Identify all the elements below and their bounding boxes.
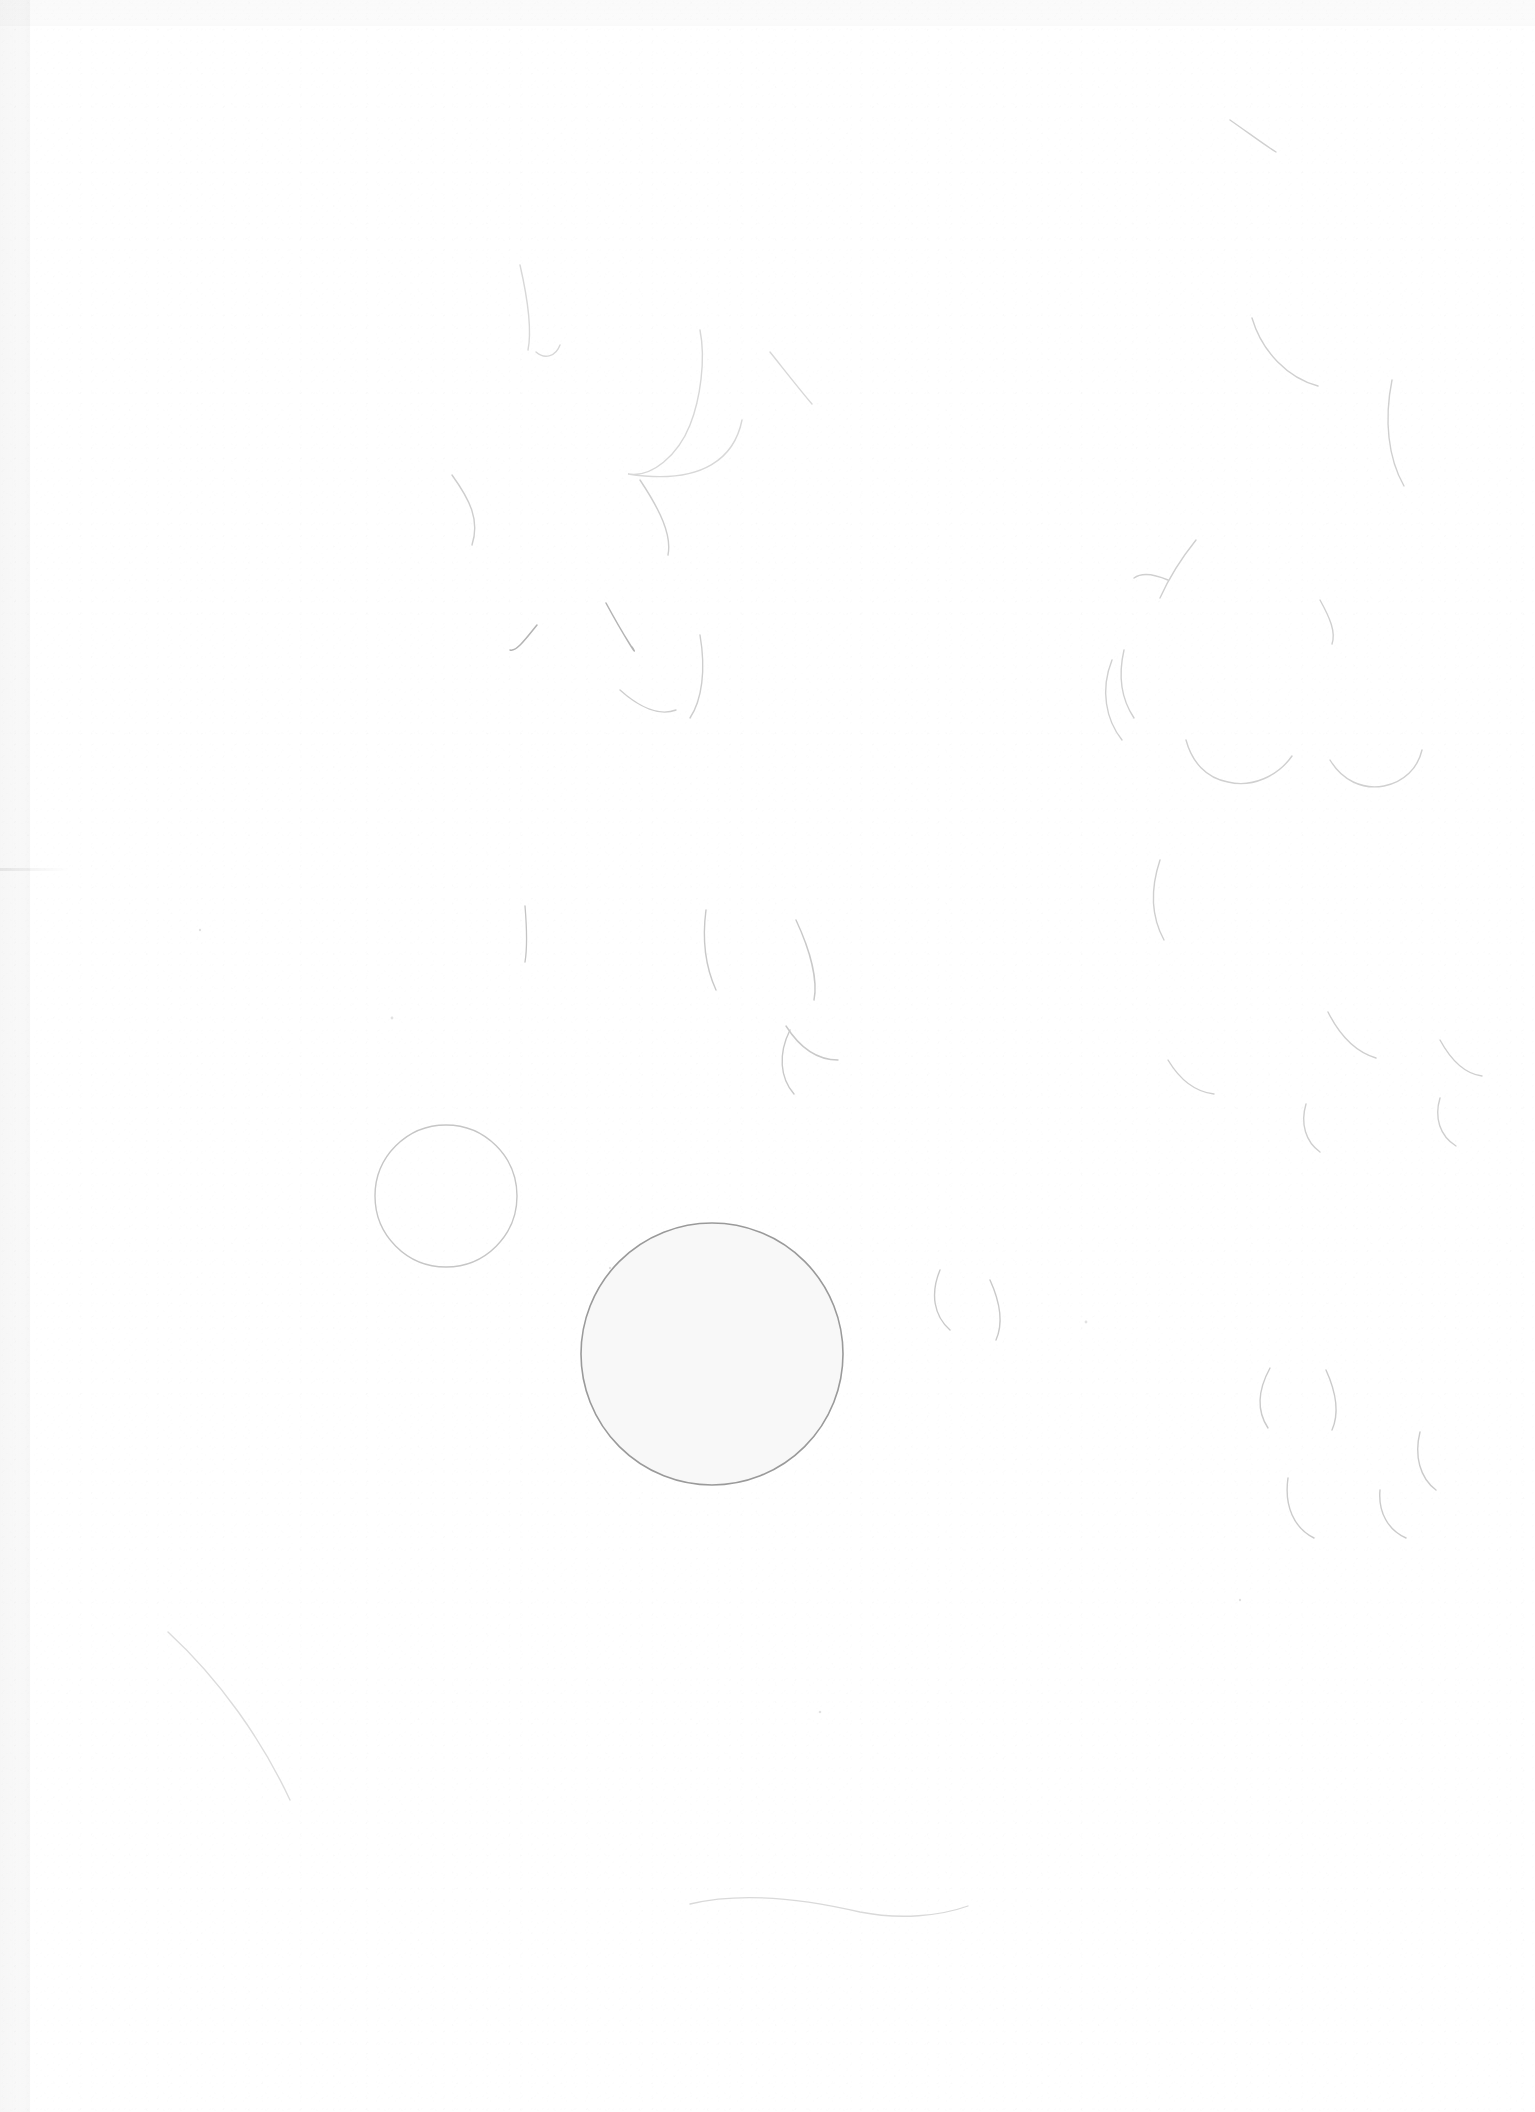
cloud-lobe-upper-right	[1106, 120, 1422, 787]
arc-lower-left	[168, 1632, 290, 1800]
small-outline-circle	[375, 1125, 517, 1267]
pencil-sketch-artwork	[0, 0, 1535, 2112]
cloud-lobe-lower-right	[1260, 1368, 1436, 1538]
scanned-page: Scanned blank page with faint pencil out…	[0, 0, 1535, 2112]
wavy-line-bottom	[690, 1898, 968, 1917]
cloud-lobe-right-mid	[1154, 860, 1482, 1152]
large-filled-disk	[581, 1223, 843, 1485]
stroke-pair-upper-middle	[510, 603, 634, 651]
vertical-tick-upper-center	[525, 906, 527, 962]
cloud-lobe-center-mid	[452, 475, 703, 718]
cloud-lobe-center-top	[520, 265, 812, 477]
